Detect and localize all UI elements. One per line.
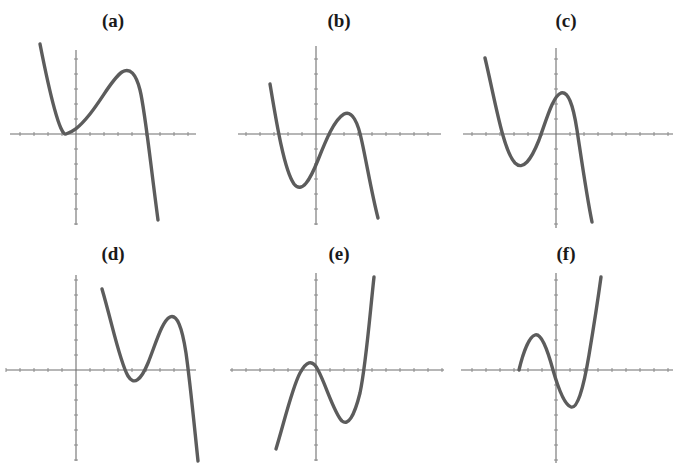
panel-f: (f) — [453, 233, 679, 466]
plot-b — [226, 0, 452, 233]
panel-c: (c) — [453, 0, 679, 233]
plot-d — [0, 233, 226, 466]
tick-marks-c — [472, 59, 668, 224]
panel-d: (d) — [0, 233, 226, 466]
panel-b: (b) — [226, 0, 452, 233]
plot-a — [0, 0, 226, 233]
cubic-curve-f — [519, 277, 601, 407]
cubic-curve-b — [270, 84, 378, 218]
tick-marks-b — [246, 59, 428, 224]
tick-marks-a — [20, 59, 188, 224]
plot-c — [453, 0, 679, 233]
plot-f — [453, 233, 679, 466]
panel-e: (e) — [226, 233, 452, 466]
figure-container: (a)(b)(c)(d)(e)(f) — [0, 0, 679, 466]
panel-a: (a) — [0, 0, 226, 233]
cubic-curve-a — [40, 44, 158, 220]
cubic-curve-e — [276, 277, 374, 449]
cubic-curve-d — [102, 289, 198, 461]
plot-e — [226, 233, 452, 466]
cubic-curve-c — [485, 58, 592, 222]
